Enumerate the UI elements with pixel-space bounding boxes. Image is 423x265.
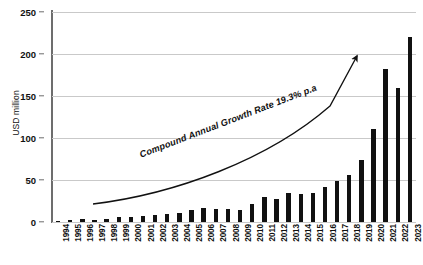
x-tick-label: 2023 — [414, 224, 423, 242]
x-tick-label: 2009 — [244, 224, 253, 242]
bar — [311, 193, 315, 222]
bar — [117, 217, 121, 222]
x-tick-label: 2017 — [341, 224, 350, 242]
y-tick-label: 50 — [25, 175, 36, 186]
y-tick-mark — [39, 137, 44, 138]
x-tick-label: 1998 — [110, 224, 119, 242]
bar — [371, 129, 375, 222]
x-tick-label: 2011 — [268, 224, 277, 241]
x-tick-label: 2004 — [183, 224, 192, 242]
x-tick-label: 2020 — [377, 224, 386, 242]
bar — [274, 199, 278, 222]
bar — [177, 213, 181, 222]
bar — [68, 220, 72, 222]
bar — [396, 88, 400, 222]
x-tick-label: 2019 — [365, 224, 374, 242]
x-tick-label: 2000 — [134, 224, 143, 242]
x-tick-label: 2002 — [159, 224, 168, 242]
y-tick-mark — [39, 179, 44, 180]
x-axis-tick-labels: 1994199519961997199819992000200120022003… — [52, 224, 416, 265]
x-tick-label: 1996 — [86, 224, 95, 242]
bar — [408, 37, 412, 222]
bar — [238, 210, 242, 222]
bar — [359, 160, 363, 222]
x-tick-label: 2013 — [292, 224, 301, 242]
x-tick-label: 2015 — [316, 224, 325, 242]
y-tick-mark — [39, 53, 44, 54]
x-tick-label: 2006 — [207, 224, 216, 242]
x-tick-label: 1997 — [98, 224, 107, 242]
bar — [141, 216, 145, 222]
x-tick-label: 2005 — [195, 224, 204, 242]
x-tick-label: 2014 — [304, 224, 313, 242]
x-tick-label: 1995 — [74, 224, 83, 242]
bar — [286, 193, 290, 222]
y-tick-label: 0 — [31, 217, 36, 228]
x-tick-label: 2003 — [171, 224, 180, 242]
y-tick-label: 200 — [20, 49, 36, 60]
y-tick-label: 250 — [20, 7, 36, 18]
x-tick-label: 2001 — [147, 224, 156, 242]
bar — [189, 210, 193, 222]
y-tick-label: 100 — [20, 133, 36, 144]
x-tick-label: 2016 — [329, 224, 338, 242]
bar — [262, 197, 266, 222]
bar — [347, 175, 351, 222]
bar — [214, 209, 218, 222]
x-tick-label: 2007 — [219, 224, 228, 242]
bar — [323, 187, 327, 222]
bar — [226, 209, 230, 222]
bar — [80, 219, 84, 222]
bar — [165, 214, 169, 222]
bar — [92, 220, 96, 222]
x-tick-label: 2012 — [280, 224, 289, 242]
y-tick-label: 150 — [20, 91, 36, 102]
x-tick-label: 1999 — [122, 224, 131, 242]
bar — [250, 204, 254, 222]
x-tick-label: 1994 — [62, 224, 71, 242]
x-tick-label: 2018 — [353, 224, 362, 242]
bar — [299, 194, 303, 222]
x-tick-label: 2008 — [232, 224, 241, 242]
bar — [153, 215, 157, 222]
y-tick-mark — [39, 95, 44, 96]
bar — [201, 208, 205, 222]
y-axis-tick-labels: 050100150200250 — [0, 12, 52, 222]
x-tick-label: 2021 — [389, 224, 398, 242]
bar — [56, 221, 60, 222]
y-tick-mark — [39, 11, 44, 12]
x-tick-label: 2022 — [401, 224, 410, 242]
x-tick-label: 2010 — [256, 224, 265, 242]
bar — [129, 217, 133, 222]
bar — [335, 181, 339, 222]
bar — [104, 219, 108, 222]
y-tick-mark — [39, 221, 44, 222]
bar — [383, 69, 387, 222]
